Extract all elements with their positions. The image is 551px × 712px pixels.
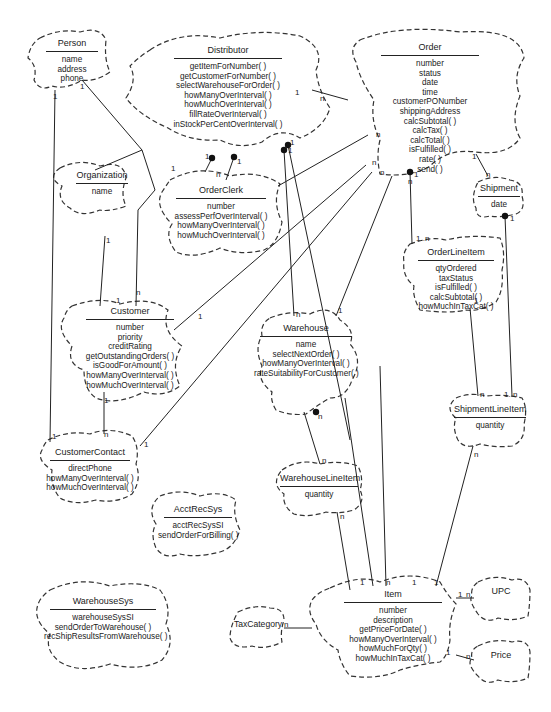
upc-cloud-outline — [471, 577, 530, 620]
class-name: Distributor — [174, 45, 282, 59]
class-warehouse: Warehouse name selectNextOrder( ) howMan… — [254, 323, 358, 378]
member: date — [478, 200, 520, 210]
member: howManyOverInterval( ) — [254, 359, 358, 369]
multiplicity: n — [320, 94, 324, 103]
multiplicity: 1 — [338, 306, 342, 315]
member: time — [375, 88, 485, 98]
class-name: WarehouseSys — [50, 596, 156, 610]
class-name: OrderLineItem — [418, 247, 494, 261]
class-taxcategory: TaxCategory — [230, 620, 286, 630]
member: calcTotal( ) — [375, 136, 485, 146]
class-name: Item — [344, 589, 442, 603]
multiplicity: 1 — [198, 312, 202, 321]
multiplicity: n — [372, 158, 376, 167]
multiplicity: n — [322, 456, 326, 465]
member: number — [80, 323, 180, 333]
member: howMuchOverInterval( ) — [170, 231, 272, 241]
class-customer: Customer number priority creditRating ge… — [80, 306, 180, 390]
class-organization: Organization name — [76, 170, 128, 197]
multiplicity: n — [318, 412, 322, 421]
multiplicity: n — [386, 578, 390, 587]
member: address — [40, 65, 104, 75]
multiplicity: 1 — [237, 157, 241, 166]
class-name: CustomerContact — [50, 447, 130, 461]
multiplicity: n — [136, 288, 140, 297]
multiplicity: 1..n — [416, 234, 429, 243]
member: sendOrderForBilling( ) — [158, 531, 238, 541]
member: sendOrderToWarehouse( ) — [44, 623, 162, 633]
member: acctRecSysSI — [158, 521, 238, 531]
class-name: OrderClerk — [176, 185, 266, 199]
member: send( ) — [375, 165, 485, 175]
multiplicity: 1 — [474, 296, 478, 305]
member: name — [254, 340, 358, 350]
member: description — [338, 616, 448, 626]
multiplicity: n — [104, 430, 108, 439]
class-order: Order number status date time customerPO… — [375, 42, 485, 174]
multiplicity: 1 — [446, 648, 450, 657]
member: rate( ) — [375, 155, 485, 165]
member: shippingAddress — [375, 107, 485, 117]
member: date — [375, 78, 485, 88]
multiplicity: 1 — [295, 88, 299, 97]
class-name: UPC — [478, 587, 524, 597]
member: howMuchOverInterval( ) — [168, 100, 288, 110]
class-name: Shipment — [478, 183, 520, 197]
multiplicity: n — [486, 170, 490, 179]
member: howManyOverInterval( ) — [338, 635, 448, 645]
class-warehouselineitem: WarehouseLineItem quantity — [280, 473, 358, 500]
class-name: TaxCategory — [230, 620, 286, 630]
class-name: WarehouseLineItem — [280, 473, 358, 487]
member: getPriceForDate( ) — [338, 625, 448, 635]
class-diagram: Person name address phone Distributor ge… — [0, 0, 551, 712]
class-item: Item number description getPriceForDate(… — [338, 589, 448, 664]
multiplicity: 1 — [414, 170, 418, 179]
class-distributor: Distributor getItemForNumber( ) getCusto… — [168, 45, 288, 129]
member: inStockPerCentOverInterval( ) — [168, 120, 288, 130]
multiplicity: 1 — [288, 146, 292, 155]
member: getItemForNumber( ) — [168, 62, 288, 72]
class-acctrecsys: AcctRecSys acctRecSysSI sendOrderForBill… — [158, 504, 238, 540]
member: isFulfilled( ) — [375, 145, 485, 155]
multiplicity: 1 — [510, 214, 514, 223]
member: name — [40, 55, 104, 65]
member: phone — [40, 74, 104, 84]
multiplicity: n — [216, 170, 220, 179]
multiplicity: n — [466, 590, 470, 599]
multiplicity: n — [380, 168, 384, 177]
member: selectNextOrder( ) — [254, 350, 358, 360]
member: howMuchInTaxCat( ) — [338, 654, 448, 664]
member: calcSubtotal( ) — [412, 293, 500, 303]
member: taxStatus — [412, 274, 500, 284]
member: calcTax( ) — [375, 126, 485, 136]
class-name: ShipmentLineItem — [454, 404, 526, 418]
price-cloud-outline — [470, 641, 530, 683]
member: customerPONumber — [375, 97, 485, 107]
multiplicity: n — [408, 177, 412, 186]
member: howMuchInTaxCat( ) — [412, 302, 500, 312]
class-name: Customer — [86, 306, 174, 320]
member: number — [338, 606, 448, 616]
member: isGoodForAmount( ) — [80, 361, 180, 371]
multiplicity: n — [284, 620, 288, 629]
multiplicity: 1 — [171, 164, 175, 173]
multiplicity: 1 — [412, 578, 416, 587]
multiplicity: 1 — [52, 432, 56, 441]
multiplicity: n — [376, 130, 380, 139]
class-customercontact: CustomerContact directPhone howManyOverI… — [44, 447, 136, 493]
multiplicity: 1 — [472, 152, 476, 161]
member: howManyOverInterval( ) — [168, 91, 288, 101]
member: qtyOrdered — [412, 264, 500, 274]
member: quantity — [454, 421, 526, 431]
member: number — [375, 59, 485, 69]
member: priority — [80, 333, 180, 343]
member: howMuchOverInterval( ) — [80, 381, 180, 391]
multiplicity: 1..n — [504, 390, 517, 399]
class-name: Organization — [76, 170, 128, 184]
multiplicity: 1 — [205, 152, 209, 161]
class-name: AcctRecSys — [164, 504, 232, 518]
class-name: Warehouse — [260, 323, 352, 337]
class-warehousesys: WarehouseSys warehouseSysSI sendOrderToW… — [44, 596, 162, 642]
member: howManyOverInterval( ) — [170, 221, 272, 231]
member: rateSuitabilityForCustomer( ) — [254, 369, 358, 379]
